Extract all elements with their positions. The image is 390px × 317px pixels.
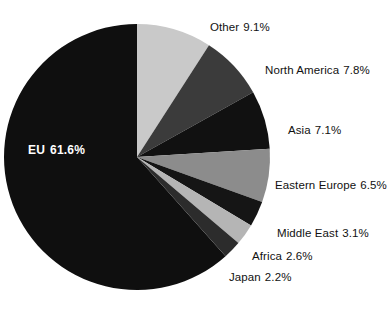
- slice-label-africa-value: 2.6%: [286, 250, 313, 262]
- slice-label-asia-value: 7.1%: [315, 124, 342, 136]
- slice-label-middle-east: Middle East3.1%: [277, 228, 369, 240]
- slice-label-africa-name: Africa: [252, 250, 282, 262]
- slice-label-north-america-value: 7.8%: [343, 64, 370, 76]
- slice-label-eu-name: EU: [28, 143, 45, 157]
- slice-label-eastern-europe: Eastern Europe6.5%: [275, 180, 387, 192]
- slice-label-north-america-name: North America: [265, 64, 339, 76]
- slice-label-middle-east-name: Middle East: [277, 227, 338, 239]
- slice-label-japan-name: Japan: [229, 271, 261, 283]
- slice-label-asia: Asia7.1%: [288, 125, 341, 137]
- slice-label-eastern-europe-name: Eastern Europe: [275, 179, 356, 191]
- pie-chart-figure: EU61.6% Other9.1% North America7.8% Asia…: [0, 0, 390, 317]
- slice-label-japan: Japan2.2%: [229, 272, 291, 284]
- slice-label-japan-value: 2.2%: [265, 271, 292, 283]
- slice-label-other: Other9.1%: [210, 22, 270, 34]
- slice-label-middle-east-value: 3.1%: [342, 227, 369, 239]
- slice-label-eastern-europe-value: 6.5%: [360, 179, 387, 191]
- slice-label-other-value: 9.1%: [243, 21, 270, 33]
- slice-label-other-name: Other: [210, 21, 239, 33]
- pie-chart-canvas: [0, 0, 390, 317]
- slice-label-eu-value: 61.6%: [50, 143, 85, 157]
- slice-label-asia-name: Asia: [288, 124, 311, 136]
- slice-label-eu: EU61.6%: [28, 144, 85, 156]
- slice-label-north-america: North America7.8%: [265, 65, 370, 77]
- slice-label-africa: Africa2.6%: [252, 251, 313, 263]
